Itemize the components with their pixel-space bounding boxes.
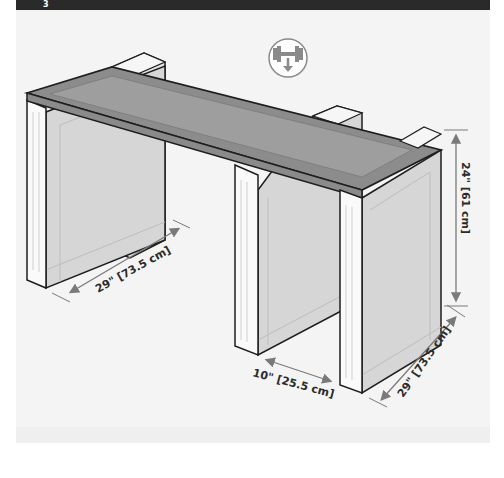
desk-assembly-illustration: 24" [61 cm] 29" [73.5 cm] 10" [25.5 cm] … [0,0,504,478]
gap-dimension: 10" [25.5 cm] [251,360,335,401]
height-label: 24" [61 cm] [459,162,472,234]
gap-label: 10" [25.5 cm] [251,366,335,400]
height-dimension: 24" [61 cm] [444,130,472,306]
weight-load-down-icon [269,39,307,77]
